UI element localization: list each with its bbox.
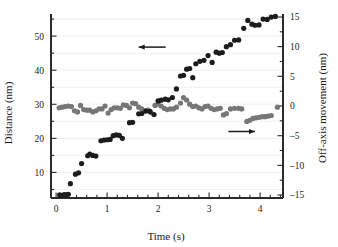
arrow-head (139, 45, 145, 50)
y-tick-label: 20 (35, 134, 45, 144)
y2-tick-label: 10 (290, 42, 300, 52)
data-point (273, 14, 278, 19)
data-point (220, 50, 225, 55)
x-axis-title: Time (s) (147, 230, 185, 243)
x-tick-label: 0 (54, 204, 59, 214)
x-tick-label: 2 (156, 204, 161, 214)
data-point (76, 170, 81, 175)
left-arrow (139, 45, 166, 50)
data-point (68, 181, 73, 186)
data-point (256, 22, 261, 27)
data-point (75, 109, 80, 114)
data-point (275, 105, 280, 110)
data-point (170, 95, 175, 100)
data-point (228, 42, 233, 47)
data-point (241, 26, 246, 31)
series-distance (57, 14, 278, 198)
right-arrow (228, 129, 255, 134)
data-point (201, 58, 206, 63)
gridlines (51, 19, 283, 189)
scatter-chart: 01234 1020304050 –15–10–5051015 Time (s)… (0, 0, 338, 247)
data-point (190, 75, 195, 80)
data-point (224, 111, 229, 116)
data-point (93, 153, 98, 158)
y-tick-label: 50 (35, 32, 45, 42)
x-tick-label: 4 (258, 204, 263, 214)
data-point (239, 106, 244, 111)
data-point (66, 192, 71, 197)
plot-frame (51, 14, 283, 198)
data-point (205, 53, 210, 58)
data-point (187, 66, 192, 71)
data-point (236, 37, 241, 42)
annotation-arrows (139, 45, 255, 135)
data-point (218, 106, 223, 111)
data-point (102, 103, 107, 108)
data-point (174, 86, 179, 91)
data-point (210, 60, 215, 65)
y2-tick-label: 15 (290, 12, 300, 22)
data-point (79, 161, 84, 166)
y-tick-label: 40 (35, 66, 45, 76)
y2-tick-label: 0 (290, 101, 295, 111)
y2-tick-label: –15 (289, 190, 305, 200)
figure-container: 01234 1020304050 –15–10–5051015 Time (s)… (0, 0, 338, 247)
data-point (78, 103, 83, 108)
y-axis-left-title: Distance (nm) (2, 81, 15, 144)
data-point (69, 104, 74, 109)
data-point (178, 100, 183, 105)
y-axis-left-ticks: 1020304050 (35, 19, 57, 189)
arrow-head (249, 129, 255, 134)
y-axis-right-title: Off-axis movement (nm) (316, 53, 329, 163)
data-point (245, 18, 250, 23)
y-tick-label: 10 (35, 168, 45, 178)
data-point (130, 120, 135, 125)
y2-tick-label: –10 (289, 161, 305, 171)
x-axis-ticks: 01234 (54, 193, 281, 215)
x-tick-label: 3 (207, 204, 212, 214)
y2-tick-label: 5 (290, 72, 295, 82)
y-tick-label: 30 (35, 100, 45, 110)
data-point (269, 113, 274, 118)
data-point (127, 105, 132, 110)
data-point (120, 136, 125, 141)
data-point (174, 105, 179, 110)
data-point (181, 73, 186, 78)
data-point (184, 97, 189, 102)
data-point (151, 112, 156, 117)
y2-tick-label: –5 (289, 131, 300, 141)
x-tick-label: 1 (105, 204, 110, 214)
